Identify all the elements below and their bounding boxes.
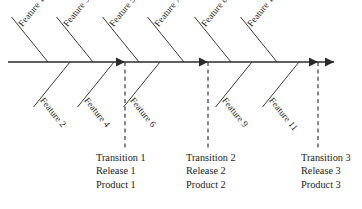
milestone-1-text-block: Transition 1Release 1Product 1 [96, 151, 146, 191]
milestone-1-line-3: Product 1 [96, 178, 146, 191]
feature-4-label: Feature 4 [82, 96, 112, 130]
milestone-2-line-1: Transition 2 [186, 151, 236, 164]
milestone-2-text-block: Transition 2Release 2Product 2 [186, 151, 236, 191]
feature-6-label: Feature 6 [128, 96, 158, 130]
feature-5-label: Feature 5 [107, 0, 137, 28]
milestone-3-line-3: Product 3 [301, 178, 351, 191]
spine-arrow-4 [325, 57, 334, 66]
milestone-dashed-lines-group [125, 62, 318, 150]
milestone-1-line-2: Release 1 [96, 164, 146, 177]
spine-arrow-3 [309, 57, 318, 66]
feature-9-label: Feature 9 [220, 96, 250, 130]
milestone-3-line-1: Transition 3 [301, 151, 351, 164]
milestone-2-line-2: Release 2 [186, 164, 236, 177]
milestone-1-line-1: Transition 1 [96, 151, 146, 164]
fishbone-diagram: Feature 1Feature 2Feature 3Feature 4Feat… [0, 0, 362, 209]
spine-group [8, 57, 334, 66]
spine-arrow-2 [199, 57, 208, 66]
feature-1-label: Feature 1 [16, 0, 46, 28]
milestone-3-line-2: Release 3 [301, 164, 351, 177]
feature-11-label: Feature 11 [267, 96, 300, 133]
milestone-3-text-block: Transition 3Release 3Product 3 [301, 151, 351, 191]
feature-8-label: Feature 8 [199, 0, 229, 28]
feature-3-label: Feature 3 [61, 0, 91, 28]
milestone-2-line-3: Product 2 [186, 178, 236, 191]
feature-2-label: Feature 2 [38, 96, 68, 130]
feature-10-label: Feature 10 [245, 0, 278, 28]
spine-arrow-1 [116, 57, 125, 66]
feature-7-label: Feature 7 [152, 0, 182, 28]
